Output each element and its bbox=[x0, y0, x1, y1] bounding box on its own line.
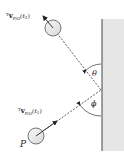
phi-label: ϕ bbox=[91, 99, 97, 108]
theta-label: θ bbox=[92, 69, 97, 78]
wall bbox=[102, 19, 124, 151]
outgoing-path bbox=[53, 28, 101, 90]
particle-label: P bbox=[19, 139, 27, 149]
collision-diagram: TvP/O(t2) TvP/O(t1) θ ϕ P bbox=[0, 0, 124, 158]
velocity-label-t2: TvP/O(t2) bbox=[6, 11, 30, 21]
velocity-label-t1: TvP/O(t1) bbox=[18, 106, 42, 116]
